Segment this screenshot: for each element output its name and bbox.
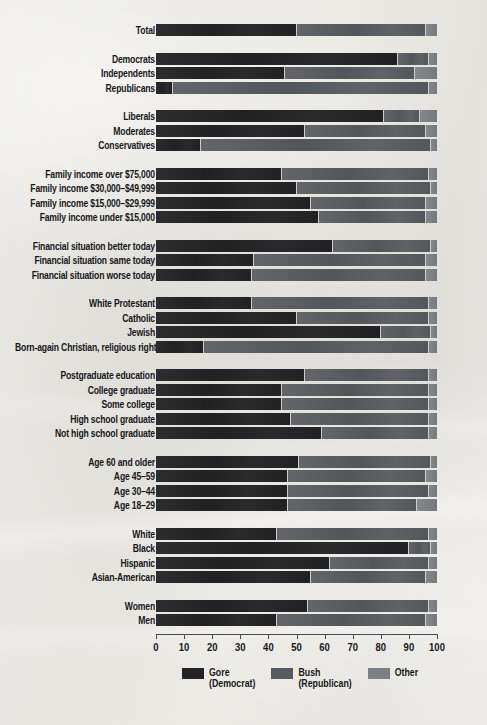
bar-segment-bush xyxy=(305,125,426,137)
legend-swatch-bush xyxy=(271,668,293,679)
bar-segment-other xyxy=(426,269,437,281)
chart-row: Family income $30,000–$49,999 xyxy=(0,181,487,195)
x-tick-label: 80 xyxy=(366,641,396,654)
bar-segment-gore xyxy=(156,384,282,396)
chart-row: Family income over $75,000 xyxy=(0,167,487,181)
chart-row: Black xyxy=(0,541,487,555)
chart-row: Jewish xyxy=(0,325,487,339)
bar-segment-other xyxy=(429,528,437,540)
x-tick xyxy=(297,634,298,639)
bar-segment-bush xyxy=(322,427,429,439)
bar-segment-other xyxy=(426,571,437,583)
bar xyxy=(156,600,437,612)
bar-segment-bush xyxy=(252,269,426,281)
bar-segment-other xyxy=(426,470,437,482)
bar-segment-bush xyxy=(381,326,432,338)
bar-segment-bush xyxy=(173,82,429,94)
bar-segment-bush xyxy=(330,557,428,569)
bar-segment-gore xyxy=(156,485,288,497)
bar-segment-gore xyxy=(156,67,285,79)
bar-segment-bush xyxy=(204,341,429,353)
bar-segment-gore xyxy=(156,326,381,338)
bar-segment-gore xyxy=(156,125,305,137)
legend-item-other: Other xyxy=(368,667,418,689)
row-label: Financial situation worse today xyxy=(15,266,155,283)
bar xyxy=(156,413,437,425)
bar-segment-gore xyxy=(156,413,291,425)
chart-row: Democrats xyxy=(0,52,487,66)
row-label: Born-again Christian, religious right xyxy=(15,338,155,355)
bar-segment-other xyxy=(420,110,437,122)
x-tick-label: 0 xyxy=(141,641,171,654)
x-tick xyxy=(381,634,382,639)
chart-row: Total xyxy=(0,23,487,37)
chart-row: Asian-American xyxy=(0,570,487,584)
bar-segment-other xyxy=(429,557,437,569)
bar-segment-bush xyxy=(288,485,429,497)
bar-segment-gore xyxy=(156,254,254,266)
x-tick-label: 90 xyxy=(394,641,424,654)
chart-row: Financial situation worse today xyxy=(0,268,487,282)
legend-item-gore: Gore(Democrat) xyxy=(182,667,255,689)
chart-row: Some college xyxy=(0,397,487,411)
bar-segment-bush xyxy=(333,240,431,252)
bar-segment-other xyxy=(431,240,437,252)
legend-sublabel: (Democrat) xyxy=(209,678,255,691)
bar xyxy=(156,312,437,324)
bar-segment-gore xyxy=(156,542,409,554)
bar-segment-gore xyxy=(156,53,398,65)
row-label: Men xyxy=(15,612,155,629)
bar xyxy=(156,297,437,309)
legend-sublabel: (Republican) xyxy=(298,678,351,691)
bar-segment-other xyxy=(426,125,437,137)
bar-segment-bush xyxy=(299,456,431,468)
legend-label: Other xyxy=(395,667,418,680)
bar-segment-other xyxy=(426,211,437,223)
bar-segment-gore xyxy=(156,369,305,381)
bar xyxy=(156,254,437,266)
x-tick-label: 10 xyxy=(169,641,199,654)
chart-row: High school graduate xyxy=(0,412,487,426)
row-label: Asian-American xyxy=(15,569,155,586)
bar-segment-other xyxy=(417,499,437,511)
bar-segment-gore xyxy=(156,197,311,209)
chart-row: Born-again Christian, religious right xyxy=(0,340,487,354)
x-tick xyxy=(184,634,185,639)
bar xyxy=(156,24,437,36)
bar-segment-bush xyxy=(409,542,431,554)
chart-row: Women xyxy=(0,599,487,613)
bar-segment-bush xyxy=(311,571,426,583)
bar-segment-gore xyxy=(156,182,297,194)
row-label: Age 18–29 xyxy=(15,497,155,514)
bar-segment-other xyxy=(429,297,437,309)
chart-row: Age 45–59 xyxy=(0,469,487,483)
bar-segment-other xyxy=(431,456,437,468)
chart-legend: Gore(Democrat)Bush(Republican)Other xyxy=(182,667,434,689)
bar-segment-bush xyxy=(297,24,426,36)
bar-segment-gore xyxy=(156,139,201,151)
row-label: Conservatives xyxy=(15,137,155,154)
bar xyxy=(156,485,437,497)
bar-segment-gore xyxy=(156,427,322,439)
bar-segment-bush xyxy=(277,528,429,540)
bar xyxy=(156,125,437,137)
chart-row: Family income $15,000–$29,999 xyxy=(0,196,487,210)
bar xyxy=(156,456,437,468)
bar-segment-other xyxy=(429,413,437,425)
legend-swatch-gore xyxy=(182,668,204,679)
bar xyxy=(156,211,437,223)
chart-row: Independents xyxy=(0,66,487,80)
chart-row: Liberals xyxy=(0,109,487,123)
bar xyxy=(156,557,437,569)
bar-segment-bush xyxy=(288,499,417,511)
bar-segment-bush xyxy=(252,297,429,309)
bar-segment-gore xyxy=(156,398,282,410)
chart-row: Men xyxy=(0,613,487,627)
chart-row: College graduate xyxy=(0,383,487,397)
bar-segment-bush xyxy=(305,369,429,381)
bar xyxy=(156,384,437,396)
bar-segment-other xyxy=(429,312,437,324)
bar xyxy=(156,571,437,583)
stacked-bar-chart: TotalDemocratsIndependentsRepublicansLib… xyxy=(0,0,487,725)
bar-segment-gore xyxy=(156,24,297,36)
